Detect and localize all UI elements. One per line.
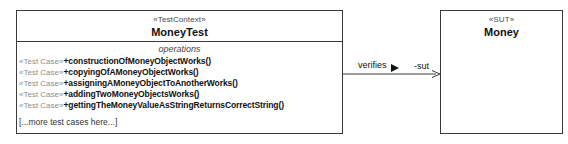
operation-row[interactable]: «Test Case»+constructionOfMoneyObjectWor… — [17, 56, 342, 67]
operation-stereotype: «Test Case» — [19, 101, 63, 110]
verifies-association-connector — [343, 39, 443, 109]
operation-stereotype: «Test Case» — [19, 57, 63, 66]
test-context-stereotype: «TestContext» — [17, 15, 342, 25]
operation-stereotype: «Test Case» — [19, 79, 63, 88]
operation-signature: +assigningAMoneyObjectToAnotherWorks() — [63, 78, 237, 88]
association-label: verifies — [358, 60, 387, 71]
association-arrowhead-icon — [432, 71, 440, 78]
test-context-class-box[interactable]: «TestContext» MoneyTest operations «Test… — [16, 10, 343, 134]
operation-signature: +constructionOfMoneyObjectWorks() — [63, 56, 210, 66]
test-context-header: «TestContext» MoneyTest — [17, 11, 342, 42]
sut-header: «SUT» Money — [441, 11, 562, 39]
operation-stereotype: «Test Case» — [19, 90, 63, 99]
sut-class-name: Money — [441, 25, 562, 39]
direction-triangle-icon — [391, 64, 399, 72]
operations-compartment-title: operations — [17, 44, 342, 55]
operation-row[interactable]: «Test Case»+assigningAMoneyObjectToAnoth… — [17, 78, 342, 89]
operation-signature: +copyingOfAMoneyObjectWorks() — [63, 67, 198, 77]
sut-class-box[interactable]: «SUT» Money — [440, 10, 563, 134]
operation-row[interactable]: «Test Case»+gettingTheMoneyValueAsString… — [17, 100, 342, 111]
association-role-label: -sut — [414, 61, 429, 72]
more-test-cases-note: [...more test cases here...] — [17, 117, 342, 128]
operation-row[interactable]: «Test Case»+copyingOfAMoneyObjectWorks() — [17, 67, 342, 78]
operation-stereotype: «Test Case» — [19, 68, 63, 77]
operations-compartment: operations «Test Case»+constructionOfMon… — [17, 42, 342, 128]
operation-row[interactable]: «Test Case»+addingTwoMoneyObjectsWorks() — [17, 89, 342, 100]
operation-signature: +gettingTheMoneyValueAsStringReturnsCorr… — [63, 100, 283, 110]
test-context-class-name: MoneyTest — [17, 25, 342, 39]
operations-list: «Test Case»+constructionOfMoneyObjectWor… — [17, 56, 342, 111]
operation-signature: +addingTwoMoneyObjectsWorks() — [63, 89, 199, 99]
sut-stereotype: «SUT» — [441, 15, 562, 25]
